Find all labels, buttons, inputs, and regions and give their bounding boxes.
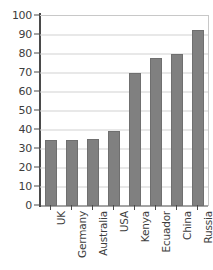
x-axis-tick-slot xyxy=(166,205,187,210)
x-axis-tick-slot xyxy=(61,205,82,210)
bar-slot xyxy=(82,16,103,206)
y-axis-tick-label: 80 xyxy=(0,48,32,59)
y-axis-tick-label: 70 xyxy=(0,67,32,78)
x-axis-tick-slot xyxy=(187,205,208,210)
x-axis-label-slot: Kenya xyxy=(124,211,145,269)
bar-slot xyxy=(103,16,124,206)
bar-slot xyxy=(61,16,82,206)
x-axis-label-slot: UK xyxy=(40,211,61,269)
bar xyxy=(45,140,57,207)
x-axis-tick-mark xyxy=(71,205,72,210)
bar xyxy=(87,139,99,206)
bar xyxy=(108,131,120,206)
x-axis-tick-mark xyxy=(113,205,114,210)
x-axis-tick-slot xyxy=(124,205,145,210)
bar xyxy=(192,30,204,206)
y-axis-tick-label: 10 xyxy=(0,181,32,192)
y-axis-tick-label: 100 xyxy=(0,10,32,21)
y-axis-tick-label: 20 xyxy=(0,162,32,173)
x-axis-label-slot: Germany xyxy=(61,211,82,269)
bar-slot xyxy=(145,16,166,206)
bar xyxy=(66,140,78,207)
bar-slot xyxy=(40,16,61,206)
x-axis-tick-slot xyxy=(103,205,124,210)
bar xyxy=(129,73,141,206)
bar-chart: 1009080706050403020100 UKGermanyAustrali… xyxy=(0,0,213,270)
x-axis-label-slot: China xyxy=(166,211,187,269)
y-axis-tick-label: 60 xyxy=(0,86,32,97)
x-axis-label-slot: Russia xyxy=(187,211,208,269)
x-axis-tick-mark xyxy=(50,205,51,210)
bar xyxy=(150,58,162,206)
y-axis-tick-label: 90 xyxy=(0,29,32,40)
bar-slot xyxy=(187,16,208,206)
x-axis-tick-mark xyxy=(176,205,177,210)
x-axis-label-slot: Ecuador xyxy=(145,211,166,269)
x-axis-tick-mark xyxy=(134,205,135,210)
x-axis-tick-slot xyxy=(82,205,103,210)
x-axis-tick-mark xyxy=(92,205,93,210)
x-axis-label-slot: USA xyxy=(103,211,124,269)
x-axis-tick-label: Russia xyxy=(203,211,213,244)
bar xyxy=(171,54,183,206)
y-axis-tick-label: 30 xyxy=(0,143,32,154)
bars-layer xyxy=(40,16,208,206)
x-axis-tick-slot xyxy=(40,205,61,210)
x-axis-tick-marks xyxy=(40,205,208,210)
y-axis-tick-label: 0 xyxy=(0,200,32,211)
y-axis-tick-labels: 1009080706050403020100 xyxy=(0,15,32,205)
x-axis-label-slot: Australia xyxy=(82,211,103,269)
x-axis-tick-mark xyxy=(155,205,156,210)
bar-slot xyxy=(166,16,187,206)
x-axis-tick-labels: UKGermanyAustraliaUSAKenyaEcuadorChinaRu… xyxy=(40,211,208,269)
y-axis-tick-label: 50 xyxy=(0,105,32,116)
x-axis-tick-mark xyxy=(197,205,198,210)
x-axis-tick-slot xyxy=(145,205,166,210)
bar-slot xyxy=(124,16,145,206)
plot-area xyxy=(40,15,209,206)
y-axis-tick-label: 40 xyxy=(0,124,32,135)
